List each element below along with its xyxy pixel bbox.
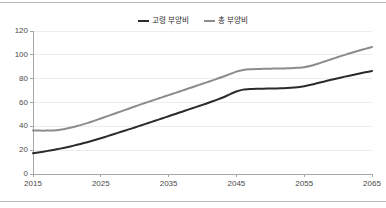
line-chart-plot <box>0 0 386 208</box>
gridlines <box>33 31 372 150</box>
data-series <box>33 47 372 153</box>
chart-figure: 고령 부양비 총 부양비 020406080100120 20152025203… <box>0 0 386 208</box>
tick-marks <box>30 31 372 177</box>
